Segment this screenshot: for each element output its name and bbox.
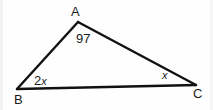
angle-label-b: 2x xyxy=(34,74,47,87)
vertex-label-b: B xyxy=(14,93,23,106)
angle-b-variable: x xyxy=(41,75,47,87)
triangle-shape xyxy=(0,0,213,110)
angle-label-c: x xyxy=(162,70,168,81)
edge-ab xyxy=(17,22,78,89)
angle-label-a: 97 xyxy=(76,32,90,45)
triangle-diagram: A B C 97 2x x xyxy=(0,0,213,110)
vertex-label-a: A xyxy=(71,5,80,18)
vertex-label-c: C xyxy=(193,87,203,100)
edge-ac xyxy=(78,22,196,85)
